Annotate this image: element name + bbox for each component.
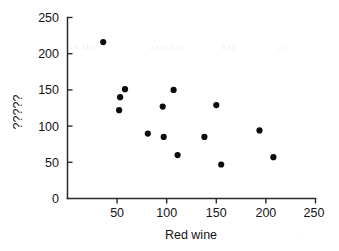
y-tick-label-50: 50 xyxy=(45,156,59,170)
scatter-series xyxy=(100,39,276,168)
data-point xyxy=(145,131,151,137)
x-tick-label-250: 250 xyxy=(304,206,325,220)
data-point xyxy=(117,94,123,100)
data-point xyxy=(175,152,181,158)
y-axis-title: ????? xyxy=(11,95,25,130)
data-point xyxy=(160,104,166,110)
x-tick-label-50: 50 xyxy=(110,206,124,220)
x-tick-label-200: 200 xyxy=(255,206,276,220)
x-tick-label-150: 150 xyxy=(206,206,227,220)
data-point xyxy=(100,39,106,45)
data-point xyxy=(116,107,122,113)
y-tick-label-100: 100 xyxy=(38,120,59,134)
y-tick-label-0: 0 xyxy=(52,192,59,206)
scatter-plot-figure: in the another has or r 250 200 150 100 … xyxy=(0,0,339,251)
data-point xyxy=(256,127,262,133)
data-point xyxy=(270,154,276,160)
data-point xyxy=(161,134,167,140)
data-point xyxy=(201,134,207,140)
data-point xyxy=(213,102,219,108)
y-tick-label-250: 250 xyxy=(38,11,59,25)
y-tick-label-200: 200 xyxy=(38,47,59,61)
x-axis-title: Red wine xyxy=(165,228,217,242)
chart-canvas: 250 200 150 100 50 0 50 100 150 200 250 … xyxy=(0,0,339,251)
data-point xyxy=(122,86,128,92)
x-tick-label-100: 100 xyxy=(156,206,177,220)
data-point xyxy=(218,161,224,167)
data-point xyxy=(171,87,177,93)
y-tick-label-150: 150 xyxy=(38,83,59,97)
